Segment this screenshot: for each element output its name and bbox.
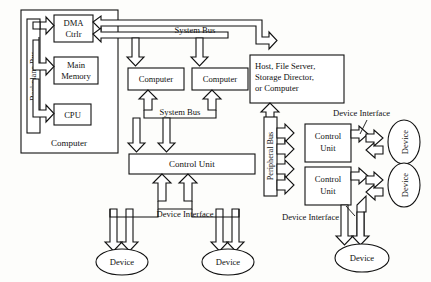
device-bottom-left-label: Device (110, 257, 135, 267)
arrow-backplane-stub-dma (33, 22, 40, 29)
arrow-di-lower-right-bridge (366, 172, 383, 188)
arrow-peripheral-bus-to-control-unit-lower-b (277, 176, 294, 194)
arrow-control-unit-to-di-b (179, 174, 197, 201)
arrow-peripheral-bus-to-control-unit-upper-b (277, 140, 294, 158)
arrow-di-upper-right-bridge (366, 130, 383, 146)
arrow-middle-bus-to-control-unit-a (128, 118, 145, 152)
computer-left-label: Computer (139, 74, 174, 84)
device-interface-top-right-label: Device Interface (333, 108, 390, 118)
system-bus-top-label: System Bus (175, 25, 216, 35)
computer-subsystem-label: Computer (51, 138, 87, 148)
device-interface-bottom-right-label: Device Interface (282, 212, 339, 222)
control-unit-lower-label-line1: Control (315, 174, 342, 184)
control-unit-upper-label-line2: Unit (320, 143, 336, 153)
control-unit-lower-label-line2: Unit (320, 186, 336, 196)
cpu-label: CPU (64, 110, 82, 120)
device-bottom-right-label: Device (350, 253, 375, 263)
dma-controller-label-line1: DMA (63, 18, 84, 28)
arrow-to-device-bottom-right-c (352, 212, 369, 245)
main-memory-label-line2: Memory (61, 71, 91, 81)
arrow-middle-bus-to-control-unit-b (158, 118, 175, 152)
device-interface-center-bus (158, 201, 192, 209)
computer-right-label: Computer (203, 74, 238, 84)
device-right-upper-label: Device (400, 130, 410, 155)
main-memory-label-line1: Main (67, 60, 86, 70)
device-bottom-center-label: Device (216, 257, 241, 267)
arrow-middle-bus-to-computer-left (139, 90, 157, 110)
device-right-lower-label: Device (400, 173, 410, 198)
arrow-peripheral-bus-to-control-unit-lower (277, 160, 294, 178)
control-unit-upper-label-line1: Control (315, 131, 342, 141)
host-label-line3: or Computer (255, 83, 299, 93)
host-label-line1: Host, File Server, (255, 61, 315, 71)
arrow-di-to-device-bottom-center-b (227, 209, 244, 251)
arrow-system-bus-to-computer-left (127, 38, 144, 66)
arrow-peripheral-bus-to-control-unit-upper (277, 124, 294, 142)
arrow-di-to-device-bottom-left-b (121, 209, 138, 251)
control-unit-main-label: Control Unit (169, 159, 215, 169)
diagram-canvas: Computer Backplane Bus DMA Ctrlr Main Me… (0, 0, 431, 282)
dma-controller-label-line2: Ctrlr (65, 29, 81, 39)
host-label-line2: Storage Director, (255, 72, 314, 82)
arrow-peripheral-bus-to-host (261, 103, 279, 118)
arrow-control-unit-to-di-a (153, 174, 171, 201)
system-bus-middle-label: System Bus (160, 107, 201, 117)
arrow-di-to-device-bottom-center (211, 209, 228, 251)
peripheral-bus-label: Peripheral Bus (266, 132, 275, 180)
arrow-middle-bus-to-computer-right (203, 90, 221, 110)
arrow-system-bus-to-computer-right (191, 38, 208, 66)
arrow-di-to-device-bottom-left (105, 209, 122, 251)
